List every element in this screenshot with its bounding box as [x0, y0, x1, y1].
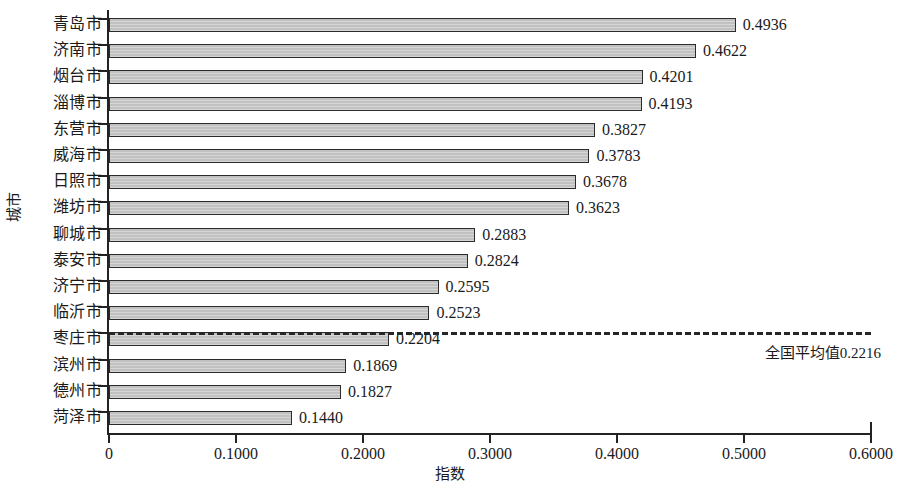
bar-row: 东营市0.3827 [0, 119, 899, 145]
bar [109, 97, 642, 111]
horizontal-bar-chart: 城市 青岛市0.4936济南市0.4622烟台市0.4201淄博市0.4193东… [0, 0, 899, 485]
bar-row: 淄博市0.4193 [0, 93, 899, 119]
bar-row: 青岛市0.4936 [0, 14, 899, 40]
category-label: 潍坊市 [53, 198, 102, 216]
x-axis-tick-label: 0.5000 [722, 445, 766, 463]
category-label: 枣庄市 [53, 329, 102, 347]
bar-row: 聊城市0.2883 [0, 224, 899, 250]
bar-row: 烟台市0.4201 [0, 66, 899, 92]
bar-row: 日照市0.3678 [0, 171, 899, 197]
bar [109, 175, 576, 189]
bar-row: 临沂市0.2523 [0, 302, 899, 328]
bar-value-label: 0.2523 [436, 304, 480, 322]
bar-value-label: 0.2883 [482, 226, 526, 244]
category-label: 临沂市 [53, 303, 102, 321]
bar-value-label: 0.1440 [299, 409, 343, 427]
bar [109, 359, 346, 373]
x-axis-tick-label: 0.2000 [341, 445, 385, 463]
category-label: 青岛市 [53, 15, 102, 33]
bar-row: 潍坊市0.3623 [0, 197, 899, 223]
category-label: 东营市 [53, 120, 102, 138]
bar [109, 306, 429, 320]
category-label: 淄博市 [53, 94, 102, 112]
x-axis-tick-label: 0.3000 [468, 445, 512, 463]
category-label: 济宁市 [53, 277, 102, 295]
category-label: 日照市 [53, 172, 102, 190]
x-axis-tick [362, 434, 364, 443]
x-axis-title: 指数 [0, 462, 899, 483]
bar [109, 149, 589, 163]
x-axis-tick [616, 434, 618, 443]
national-average-line [109, 332, 871, 335]
bar [109, 411, 292, 425]
bar [109, 385, 341, 399]
bar-row: 济南市0.4622 [0, 40, 899, 66]
bar-value-label: 0.4936 [743, 16, 787, 34]
bar-row: 济宁市0.2595 [0, 276, 899, 302]
bar [109, 70, 643, 84]
x-axis-tick-label: 0.6000 [849, 445, 893, 463]
x-axis-tick-label: 0.4000 [595, 445, 639, 463]
x-axis-tick [870, 434, 872, 443]
bar-value-label: 0.3783 [596, 147, 640, 165]
x-axis-tick-label: 0.1000 [214, 445, 258, 463]
category-label: 泰安市 [53, 251, 102, 269]
category-label: 烟台市 [53, 67, 102, 85]
bar-value-label: 0.1869 [353, 357, 397, 375]
bar-value-label: 0.4622 [703, 42, 747, 60]
x-axis-tick [108, 434, 110, 443]
bar [109, 254, 468, 268]
category-label: 济南市 [53, 41, 102, 59]
national-average-label: 全国平均值0.2216 [765, 341, 881, 362]
bar [109, 123, 595, 137]
bar-value-label: 0.4193 [649, 95, 693, 113]
bar-row: 威海市0.3783 [0, 145, 899, 171]
x-axis-tick [235, 434, 237, 443]
bar-value-label: 0.3678 [583, 173, 627, 191]
bar [109, 18, 736, 32]
category-label: 滨州市 [53, 356, 102, 374]
category-label: 聊城市 [53, 225, 102, 243]
bar-value-label: 0.3827 [602, 121, 646, 139]
bar-row: 德州市0.1827 [0, 381, 899, 407]
x-axis-tick [489, 434, 491, 443]
x-axis-tick-label: 0 [105, 445, 113, 463]
bar [109, 228, 475, 242]
bar-value-label: 0.2595 [446, 278, 490, 296]
bar-value-label: 0.1827 [348, 383, 392, 401]
bar [109, 44, 696, 58]
bar-row: 菏泽市0.1440 [0, 407, 899, 433]
category-label: 菏泽市 [53, 408, 102, 426]
bar-value-label: 0.3623 [576, 199, 620, 217]
bar [109, 201, 569, 215]
category-label: 威海市 [53, 146, 102, 164]
bar [109, 280, 439, 294]
bar-value-label: 0.2824 [475, 252, 519, 270]
x-axis-tick [743, 434, 745, 443]
bar-row: 泰安市0.2824 [0, 250, 899, 276]
category-label: 德州市 [53, 382, 102, 400]
bar-value-label: 0.4201 [650, 68, 694, 86]
